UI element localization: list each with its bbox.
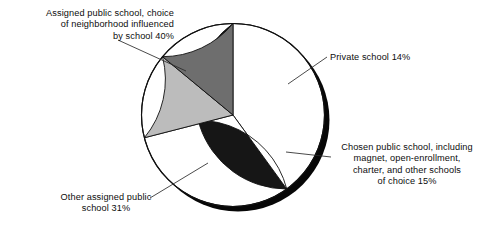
pie-label-other-assigned: Other assigned public school 31%: [36, 192, 176, 215]
pie-label-private: Private school 14%: [330, 52, 470, 63]
pie-label-chosen-public: Chosen public school, including magnet, …: [334, 142, 480, 188]
pie-label-assigned-influenced: Assigned public school, choice of neighb…: [6, 8, 174, 42]
pie-chart-figure: Assigned public school, choice of neighb…: [0, 0, 483, 227]
pie-slices: [142, 24, 325, 207]
